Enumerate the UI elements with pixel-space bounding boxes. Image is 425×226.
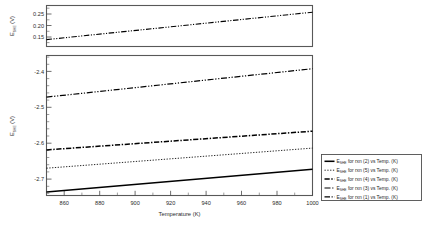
xtick-label-7: 1000 [306,200,318,206]
legend-label-1-rest: for rxn (5) vs Temp. (K) [347,168,399,173]
legend-label-4-rest: for rxn (1) vs Temp. (K) [347,195,399,200]
y-axis-title-lower-group: ESHE (V) [9,116,17,136]
xtick-label-3: 920 [166,200,175,206]
ytick-label-lower-0: -2.4 [34,69,44,75]
series-line-rxn-5 [47,148,313,168]
ytick-label-upper-2: 0.15 [33,34,44,40]
broken-axis-line-chart: 0.25 0.20 0.15 ESHE (V) [0,0,425,226]
xtick-label-4: 940 [201,200,210,206]
ytick-label-upper-1: 0.20 [33,23,44,29]
svg-text:ESHE (V): ESHE (V) [9,116,17,136]
upper-panel: 0.25 0.20 0.15 [33,6,312,47]
ytick-label-lower-2: -2.6 [34,140,44,146]
lower-panel-y-ticks [47,57,52,193]
legend-label-3-rest: for rxn (3) vs Temp. (K) [347,186,399,191]
xtick-label-0: 860 [60,200,69,206]
series-line-rxn-4 [47,131,313,150]
y-axis-title-lower-unit: (V) [9,116,15,125]
ytick-label-lower-3: -2.7 [34,176,44,182]
ytick-label-lower-1: -2.5 [34,104,44,110]
series-line-rxn-2 [47,169,313,192]
ytick-label-upper-0: 0.25 [33,11,44,17]
y-axis-title-upper-unit: (V) [9,16,15,25]
svg-text:ESHE (V): ESHE (V) [9,16,17,36]
x-axis-title: Temperature (K) [159,211,201,217]
xtick-label-6: 980 [272,200,281,206]
xtick-label-5: 960 [237,200,246,206]
legend-label-0-rest: for rxn (2) vs Temp. (K) [347,159,399,164]
upper-panel-y-ticks [47,8,52,42]
series-line-rxn-3 [47,69,313,97]
x-axis-ticks [47,191,313,196]
chart-figure: 0.25 0.20 0.15 ESHE (V) [0,0,425,226]
series-line-rxn-1 [47,12,313,39]
upper-panel-frame [47,6,313,47]
xtick-label-1: 880 [95,200,104,206]
legend[interactable]: ESHE for rxn (2) vs Temp. (K) ESHE for r… [322,155,422,202]
lower-panel-frame [47,56,313,196]
lower-panel: -2.4 -2.5 -2.6 -2.7 [34,56,318,206]
y-axis-title-upper-group: ESHE (V) [9,16,17,36]
xtick-label-2: 900 [130,200,139,206]
legend-label-2-rest: for rxn (4) vs Temp. (K) [347,177,399,182]
